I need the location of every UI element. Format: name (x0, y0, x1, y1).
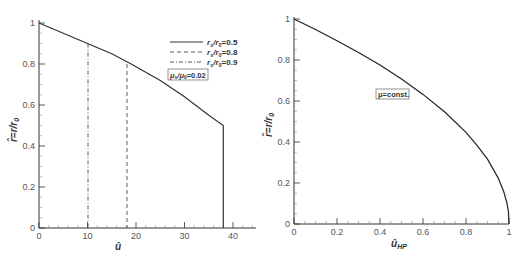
right-y-tick-label: 0.4 (277, 137, 290, 147)
right-y-tick-label: 0.8 (277, 55, 290, 65)
left-annotation: μs/μ0=0.02 (168, 69, 208, 80)
left-y-tick-label: 0.2 (22, 182, 35, 192)
left-y-tick-label: 1 (30, 18, 35, 28)
right-x-tick-label: 0.2 (331, 227, 344, 237)
right-y-tick-label: 0.2 (277, 178, 290, 188)
right-y-axis-title: r̂=r/r0 (262, 113, 275, 137)
left-y-tick-label: 0.6 (22, 100, 35, 110)
right-x-tick-label: 1 (506, 227, 511, 237)
right-chart: 0 0.2 0.4 0.6 0.8 1 0 0.2 0.4 0.6 0.8 1 … (262, 14, 511, 250)
right-x-tick-label: 0.4 (374, 227, 387, 237)
right-y-tick-label: 1 (285, 14, 290, 24)
svg-text:r̂=r/r0: r̂=r/r0 (7, 118, 20, 142)
right-x-axis-title: ûHP (391, 238, 407, 250)
figure: 0 10 20 30 40 0 0.2 0.4 0.6 0.8 1 û r̂=r… (0, 0, 526, 258)
left-chart: 0 10 20 30 40 0 0.2 0.4 0.6 0.8 1 û r̂=r… (7, 18, 256, 252)
series-rs-r0-0.5 (39, 23, 223, 228)
series-mu-const (294, 19, 509, 224)
right-y-tick-label: 0 (285, 219, 290, 229)
legend-label-0.9: rs/r0=0.9 (207, 58, 238, 68)
legend-label-0.8: rs/r0=0.8 (207, 48, 238, 58)
left-y-tick-label: 0.8 (22, 59, 35, 69)
right-annotation: μ=const. (376, 89, 409, 99)
right-x-tick-label: 0.8 (460, 227, 473, 237)
left-x-tick-label: 30 (179, 231, 189, 241)
right-x-tick-label: 0 (291, 227, 296, 237)
svg-text:r̂=r/r0: r̂=r/r0 (262, 113, 275, 137)
left-y-tick-label: 0.4 (22, 141, 35, 151)
left-x-tick-label: 10 (82, 231, 92, 241)
left-x-tick-label: 0 (36, 231, 41, 241)
left-x-tick-label: 40 (228, 231, 238, 241)
left-x-axis-title: û (115, 241, 121, 252)
svg-text:μ=const.: μ=const. (378, 90, 409, 99)
right-x-tick-label: 0.6 (417, 227, 430, 237)
left-legend: rs/r0=0.5 rs/r0=0.8 rs/r0=0.9 (170, 38, 238, 68)
legend-label-0.5: rs/r0=0.5 (207, 38, 238, 48)
svg-text:μs/μ0=0.02: μs/μ0=0.02 (169, 71, 206, 81)
left-x-tick-label: 20 (131, 231, 141, 241)
right-y-tick-label: 0.6 (277, 96, 290, 106)
left-y-tick-label: 0 (30, 223, 35, 233)
left-y-axis-title: r̂=r/r0 (7, 118, 20, 142)
